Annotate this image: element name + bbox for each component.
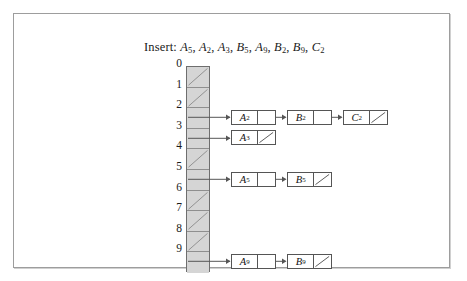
bucket-cell-occupied — [187, 170, 209, 191]
caption-prefix: Insert: — [144, 40, 180, 54]
index-label: 4 — [164, 139, 182, 151]
chain-node: A3 — [231, 130, 276, 145]
node-next-pointer — [314, 111, 331, 124]
node-null-pointer — [370, 111, 387, 124]
bucket-chain: A9B9 — [210, 251, 467, 271]
node-key-label: B5 — [288, 173, 314, 186]
node-key-label: B9 — [288, 255, 314, 268]
null-slash-icon — [314, 173, 331, 186]
caption-key: B5 — [237, 40, 249, 54]
node-null-pointer — [258, 131, 275, 144]
node-key-label: A2 — [232, 111, 258, 124]
null-slash-icon — [187, 191, 209, 211]
caption-key: C2 — [312, 40, 325, 54]
index-label: 8 — [164, 222, 182, 234]
index-label: 9 — [164, 242, 182, 254]
bucket-cell-empty — [187, 88, 209, 109]
bucket-cell-empty — [187, 211, 209, 232]
null-slash-icon — [187, 232, 209, 252]
index-label: 3 — [164, 119, 182, 131]
node-key-label: C2 — [344, 111, 370, 124]
caption-key: B2 — [274, 40, 286, 54]
bucket-cell-empty — [187, 149, 209, 170]
null-slash-icon — [370, 111, 387, 124]
index-label: 5 — [164, 160, 182, 172]
bucket-cell-empty — [187, 67, 209, 88]
null-slash-icon — [187, 88, 209, 108]
index-label: 1 — [164, 78, 182, 90]
node-key-label: A9 — [232, 255, 258, 268]
bucket-chain: A5B5 — [210, 169, 467, 189]
bucket-cell-empty — [187, 191, 209, 212]
index-label: 2 — [164, 98, 182, 110]
chain-node: B9 — [287, 254, 332, 269]
chain-node: A2 — [231, 110, 276, 125]
index-label: 7 — [164, 201, 182, 213]
chain-node: A9 — [231, 254, 276, 269]
bucket-cell-occupied — [187, 129, 209, 150]
chain-node: B2 — [287, 110, 332, 125]
bucket-cell-occupied — [187, 108, 209, 129]
chain-node: A5 — [231, 172, 276, 187]
node-next-pointer — [258, 255, 275, 268]
null-slash-icon — [314, 255, 331, 268]
caption-key: B9 — [293, 40, 305, 54]
index-label: 0 — [164, 57, 182, 69]
chain-node: C2 — [343, 110, 388, 125]
null-slash-icon — [187, 211, 209, 231]
caption-key: A5 — [180, 40, 192, 54]
bucket-chain: A3 — [210, 128, 467, 148]
figure-frame: Insert: A5, A2, A3, B5, A9, B2, B9, C2 0… — [13, 13, 450, 268]
caption-key: A9 — [255, 40, 267, 54]
null-slash-icon — [258, 131, 275, 144]
null-slash-icon — [187, 67, 209, 87]
hash-table-array — [186, 66, 210, 272]
node-key-label: A3 — [232, 131, 258, 144]
caption-key: A2 — [199, 40, 211, 54]
node-next-pointer — [258, 111, 275, 124]
node-key-label: A5 — [232, 173, 258, 186]
index-label: 6 — [164, 181, 182, 193]
node-key-label: B2 — [288, 111, 314, 124]
bucket-cell-empty — [187, 232, 209, 253]
node-null-pointer — [314, 255, 331, 268]
caption-key: A3 — [218, 40, 230, 54]
node-next-pointer — [258, 173, 275, 186]
bucket-chain: A2B2C2 — [210, 107, 467, 127]
null-slash-icon — [187, 149, 209, 169]
node-null-pointer — [314, 173, 331, 186]
chain-node: B5 — [287, 172, 332, 187]
insert-caption: Insert: A5, A2, A3, B5, A9, B2, B9, C2 — [144, 40, 325, 55]
bucket-cell-occupied — [187, 252, 209, 273]
